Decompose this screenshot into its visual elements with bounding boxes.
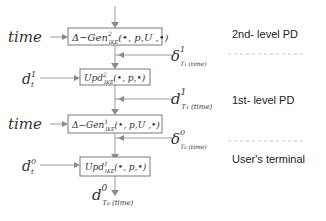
arrow-delta0 <box>118 135 124 141</box>
arrow-into-upd2 <box>111 63 119 69</box>
diagram-canvas: Δ−Gen2IKE(•, p,U ,•) Upd2IKE(•, p,•) Δ−G… <box>0 0 326 221</box>
svg-text:Upd1IKE(•, p,•): Upd1IKE(•, p,•) <box>85 160 147 174</box>
level-label-user: User's terminal <box>232 153 305 165</box>
box-gen1: Δ−Gen1IKE(•, p,U ,•) <box>68 115 162 133</box>
arrow-into-gen2 <box>111 22 119 28</box>
svg-text:Δ−Gen2IKE(•, p,U ,•): Δ−Gen2IKE(•, p,U ,•) <box>71 30 169 45</box>
arrow-d1T <box>118 96 124 102</box>
output-d0T: d0T₀ (time) <box>92 183 134 207</box>
input-time-1: time <box>8 28 42 46</box>
box-upd1: Upd1IKE(•, p,•) <box>80 157 150 176</box>
input-delta1: δ1T₁ (time) <box>171 45 207 67</box>
input-time-2: time <box>8 115 42 133</box>
level-label-1st: 1st- level PD <box>232 94 294 106</box>
arrow-into-gen1 <box>111 109 119 115</box>
svg-text:Δ−Gen1IKE(•, p,U ,•): Δ−Gen1IKE(•, p,U ,•) <box>71 118 160 132</box>
arrow-time-1 <box>62 34 68 40</box>
arrow-d0t <box>74 162 80 168</box>
box-upd2: Upd2IKE(•, p,•) <box>80 69 150 85</box>
arrow-delta1 <box>118 52 124 58</box>
svg-text:Upd2IKE(•, p,•): Upd2IKE(•, p,•) <box>84 71 146 85</box>
input-delta0: δ0T₀ (time) <box>171 128 207 150</box>
arrow-d1t <box>74 75 80 81</box>
arrow-time-2 <box>62 121 68 127</box>
arrow-output <box>111 190 119 196</box>
input-d0t: d0t <box>22 157 36 176</box>
input-d1T: d1T₁ (time) <box>171 87 213 111</box>
box-gen2: Δ−Gen2IKE(•, p,U ,•) <box>68 28 169 45</box>
input-d1t: d1t <box>22 70 36 89</box>
level-label-2nd: 2nd- level PD <box>232 28 298 40</box>
